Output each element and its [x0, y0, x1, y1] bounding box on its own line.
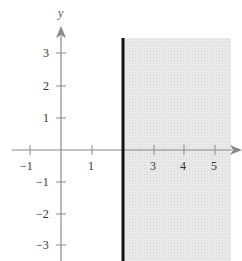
x-tick-label: 1 — [88, 159, 94, 173]
x-tick-label: −1 — [20, 159, 33, 173]
y-tick-label: 3 — [43, 46, 49, 60]
y-tick-label: −1 — [36, 175, 49, 189]
y-tick-label: 1 — [43, 111, 49, 125]
x-tick-label: 4 — [180, 159, 186, 173]
y-axis — [56, 26, 66, 261]
inequality-graph: y −1 1 3 4 5 3 2 1 −1 −2 −3 — [0, 0, 242, 261]
x-tick-label: 5 — [211, 159, 217, 173]
y-tick-label: −3 — [36, 238, 49, 252]
y-tick-label: −2 — [36, 207, 49, 221]
x-tick-label: 3 — [150, 159, 156, 173]
y-axis-label: y — [57, 6, 64, 20]
y-tick-label: 2 — [43, 79, 49, 93]
